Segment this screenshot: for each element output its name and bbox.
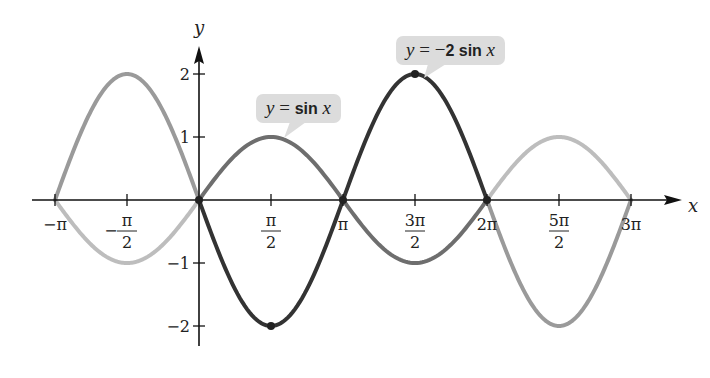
point-marker — [267, 322, 275, 330]
point-marker — [195, 196, 203, 204]
sine-graph: x y −π−π2π2π3π22π5π23π21−1−2 — [0, 0, 710, 378]
svg-text:−: − — [104, 221, 117, 240]
x-tick-label: 2π — [477, 215, 498, 234]
curve-sin-ext-right — [487, 137, 631, 200]
x-tick-fraction: 5π2 — [549, 211, 570, 252]
y-tick-label: 2 — [180, 65, 190, 84]
svg-text:2: 2 — [266, 233, 276, 252]
svg-text:π: π — [266, 211, 277, 230]
svg-text:3π: 3π — [405, 211, 426, 230]
curve-neg2sin-ext-left — [55, 74, 199, 200]
x-tick-label: π — [338, 215, 349, 234]
svg-text:2: 2 — [122, 233, 132, 252]
callout-neg2sin-fn: sin — [454, 42, 482, 59]
y-tick-label: 1 — [180, 128, 190, 147]
point-marker — [411, 70, 419, 78]
svg-text:2: 2 — [410, 233, 420, 252]
point-marker — [483, 196, 491, 204]
callout-sin-x: x — [318, 97, 331, 118]
callout-neg2sin-eq: = − — [414, 39, 445, 60]
callout-neg2sin-x: x — [482, 39, 495, 60]
callout-sin-eq: = — [274, 97, 294, 118]
x-axis-label: x — [688, 195, 698, 216]
x-tick-fraction: 3π2 — [405, 211, 426, 252]
callout-sin-fn: sin — [295, 100, 318, 117]
x-tick-fraction: −π2 — [104, 211, 137, 252]
y-tick-label: −1 — [166, 254, 190, 273]
svg-text:2: 2 — [554, 233, 564, 252]
y-axis-label: y — [193, 17, 205, 38]
callout-neg2sin: y = −2 sin x — [396, 36, 505, 65]
y-tick-label: −2 — [166, 317, 190, 336]
svg-text:π: π — [122, 211, 133, 230]
callout-sin: y = sin x — [256, 94, 341, 123]
callout-neg2sin-coef: 2 — [445, 42, 454, 59]
axes: x y — [32, 17, 698, 346]
x-tick-fraction: π2 — [261, 211, 281, 252]
x-tick-label: 3π — [621, 215, 642, 234]
point-marker — [339, 196, 347, 204]
svg-text:5π: 5π — [549, 211, 570, 230]
x-tick-label: −π — [43, 215, 67, 234]
